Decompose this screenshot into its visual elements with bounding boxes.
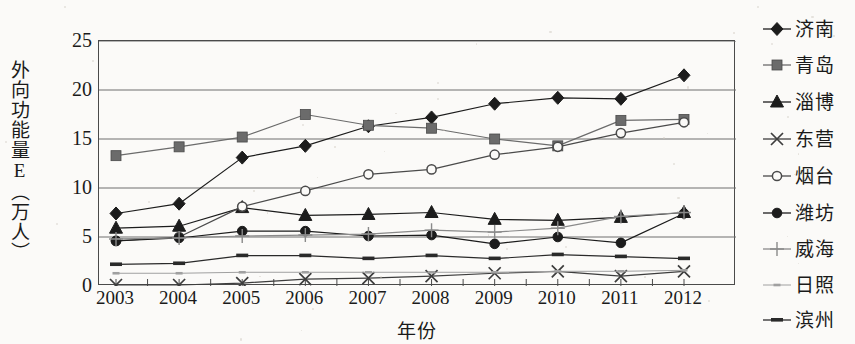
legend-item-济南[interactable]: 济南 bbox=[762, 18, 834, 40]
line-烟台 bbox=[116, 122, 684, 241]
x-tick-2008: 2008 bbox=[412, 288, 450, 307]
legend-label: 滨州 bbox=[795, 311, 834, 330]
x-axis-tick-labels: 2003200420052006200720082009201020112012 bbox=[98, 288, 735, 314]
scan-speck bbox=[602, 211, 603, 212]
marker-dash bbox=[615, 255, 627, 259]
marker-plus bbox=[361, 227, 375, 241]
legend-marker bbox=[772, 60, 782, 70]
marker-diamond bbox=[489, 97, 501, 110]
scan-speck bbox=[317, 177, 318, 178]
marker-square bbox=[174, 142, 184, 152]
legend-label: 济南 bbox=[795, 20, 834, 39]
plot-area bbox=[98, 40, 735, 285]
scan-speck bbox=[833, 35, 835, 37]
scan-speck bbox=[757, 6, 759, 8]
scan-speck bbox=[677, 197, 679, 199]
marker-square bbox=[616, 115, 626, 125]
legend-symbol-plus-icon bbox=[762, 238, 792, 260]
scan-speck bbox=[798, 263, 799, 264]
marker-triangle bbox=[362, 207, 375, 219]
marker-dash bbox=[362, 257, 374, 261]
marker-dash bbox=[491, 271, 498, 274]
legend-marker bbox=[774, 284, 781, 287]
legend-marker bbox=[771, 23, 783, 36]
legend-label: 青岛 bbox=[795, 56, 834, 75]
scan-speck bbox=[549, 31, 551, 33]
legend-label: 淄博 bbox=[795, 93, 834, 112]
marker-square bbox=[111, 151, 121, 161]
legend-item-日照[interactable]: 日照 bbox=[762, 274, 834, 296]
marker-diamond bbox=[299, 139, 311, 152]
line-淄博 bbox=[116, 208, 684, 229]
scan-speck bbox=[5, 141, 7, 143]
scan-speck bbox=[437, 98, 439, 100]
y-axis-title-text: 外向功能量E（万人） bbox=[9, 60, 29, 262]
marker-dash bbox=[554, 270, 561, 273]
x-tick-2011: 2011 bbox=[601, 288, 638, 307]
marker-plus bbox=[770, 242, 784, 256]
marker-circle-filled bbox=[490, 239, 500, 249]
legend-label: 日照 bbox=[795, 276, 834, 295]
scan-speck bbox=[240, 338, 242, 340]
marker-dash bbox=[176, 272, 183, 275]
scan-speck bbox=[334, 146, 336, 148]
marker-dash bbox=[110, 262, 122, 266]
legend-item-威海[interactable]: 威海 bbox=[762, 238, 834, 260]
marker-dash bbox=[774, 284, 781, 287]
legend-symbol-circle-filled-icon bbox=[762, 202, 792, 224]
scan-speck bbox=[787, 116, 789, 118]
marker-dash bbox=[365, 271, 372, 274]
y-tick-5: 5 bbox=[46, 226, 92, 246]
scan-speck bbox=[644, 276, 646, 278]
chart-legend: 济南青岛淄博东营烟台潍坊威海日照滨州 bbox=[762, 6, 854, 338]
marker-circle-open bbox=[772, 171, 781, 180]
x-tick-2012: 2012 bbox=[664, 288, 702, 307]
line-济南 bbox=[116, 75, 684, 213]
x-tick-2003: 2003 bbox=[96, 288, 134, 307]
marker-square bbox=[237, 132, 247, 142]
marker-square bbox=[427, 123, 437, 133]
legend-symbol-dash-light-icon bbox=[762, 274, 792, 296]
series-日照 bbox=[113, 269, 688, 275]
marker-dash bbox=[173, 261, 185, 265]
marker-diamond bbox=[236, 151, 248, 164]
legend-marker bbox=[770, 242, 784, 256]
line-青岛 bbox=[116, 115, 684, 156]
marker-dash bbox=[236, 254, 248, 258]
marker-diamond bbox=[552, 91, 564, 104]
scan-speck bbox=[811, 16, 813, 18]
marker-square bbox=[363, 120, 373, 130]
legend-item-淄博[interactable]: 淄博 bbox=[762, 91, 834, 113]
marker-dash bbox=[302, 271, 309, 274]
marker-circle-open bbox=[490, 150, 499, 159]
scan-speck bbox=[253, 190, 255, 192]
marker-plus bbox=[172, 231, 186, 245]
marker-triangle bbox=[425, 206, 438, 218]
legend-item-滨州[interactable]: 滨州 bbox=[762, 309, 834, 331]
marker-dash bbox=[617, 270, 624, 273]
marker-dash bbox=[771, 318, 783, 322]
marker-circle-open bbox=[427, 165, 436, 174]
plot-svg bbox=[99, 41, 736, 286]
series-潍坊 bbox=[111, 209, 689, 249]
scan-speck bbox=[663, 137, 665, 139]
legend-item-烟台[interactable]: 烟台 bbox=[762, 165, 834, 187]
marker-diamond bbox=[173, 197, 185, 210]
series-滨州 bbox=[110, 253, 690, 266]
marker-dash bbox=[426, 254, 438, 258]
legend-item-潍坊[interactable]: 潍坊 bbox=[762, 202, 834, 224]
line-chart-figure: 外向功能量E（万人） 0510152025 200320042005200620… bbox=[0, 0, 855, 344]
legend-label: 威海 bbox=[795, 240, 834, 259]
legend-symbol-dash-dark-icon bbox=[762, 309, 792, 331]
x-tick-2009: 2009 bbox=[475, 288, 513, 307]
marker-dash bbox=[678, 257, 690, 261]
legend-label: 烟台 bbox=[795, 167, 834, 186]
legend-item-青岛[interactable]: 青岛 bbox=[762, 54, 834, 76]
legend-item-东营[interactable]: 东营 bbox=[762, 128, 834, 150]
marker-circle-open bbox=[553, 142, 562, 151]
series-青岛 bbox=[111, 110, 689, 161]
marker-square bbox=[490, 134, 500, 144]
line-日照 bbox=[116, 270, 684, 273]
legend-marker bbox=[771, 318, 783, 322]
marker-square bbox=[772, 60, 782, 70]
